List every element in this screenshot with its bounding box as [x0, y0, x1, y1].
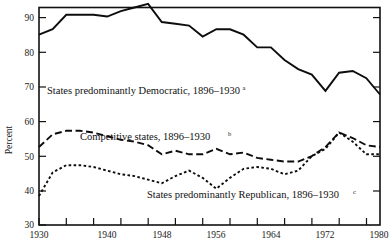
annotation-republican-footnote: c: [353, 188, 356, 195]
chart-page: 90 80 70 60 50 40 30 Percent: [0, 0, 391, 252]
x-tick-label: 1972: [316, 230, 335, 240]
annotation-democratic-text: States predominantly Democratic, 1896–19…: [47, 85, 240, 96]
x-tick-label: 1930: [30, 230, 49, 240]
annotation-republican-text: States predominantly Republican, 1896–19…: [147, 189, 339, 200]
x-tick-label: 1940: [98, 230, 117, 240]
annotation-competitive-footnote: b: [228, 130, 231, 137]
y-tick-label: 90: [25, 13, 35, 23]
annotation-republican: States predominantly Republican, 1896–19…: [147, 188, 356, 201]
line-chart: 90 80 70 60 50 40 30 Percent: [0, 0, 391, 252]
y-tick-label: 70: [25, 82, 35, 92]
y-tick-label: 30: [25, 220, 35, 230]
x-tick-label: 1948: [153, 230, 172, 240]
annotation-competitive: Competitive states, 1896–1930 b: [80, 130, 231, 143]
x-tick-label: 1964: [262, 230, 281, 240]
chart-background: [0, 0, 391, 252]
y-tick-label: 40: [25, 186, 35, 196]
x-tick-label: 1956: [207, 230, 226, 240]
annotation-democratic: States predominantly Democratic, 1896–19…: [47, 84, 246, 97]
y-tick-label: 60: [25, 117, 35, 127]
x-tick-label: 1980: [370, 230, 389, 240]
y-axis-title: Percent: [4, 125, 14, 154]
annotation-competitive-text: Competitive states, 1896–1930: [80, 131, 210, 142]
y-tick-label: 50: [25, 152, 35, 162]
annotation-democratic-footnote: a: [243, 84, 246, 91]
y-tick-label: 80: [25, 48, 35, 58]
